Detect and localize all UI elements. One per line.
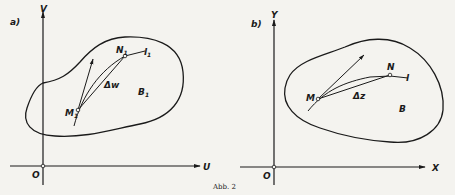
origin-label: O — [32, 170, 40, 180]
panel-a-tag: a) — [10, 17, 20, 27]
point-n — [388, 73, 392, 77]
x-axis-label: X — [431, 163, 440, 173]
label-n: N — [387, 62, 395, 72]
label-b1: B1 — [138, 87, 149, 98]
figure-canvas: a) V U O M1 N1 l1 Δw B1 b) Y X O — [0, 0, 455, 195]
y-axis-label: Y — [271, 10, 279, 20]
panel-b-tag: b) — [251, 19, 262, 29]
label-delta-z: Δz — [352, 91, 366, 101]
origin-label-b: O — [263, 171, 271, 181]
point-m — [316, 97, 320, 101]
label-l: l — [406, 73, 410, 83]
label-l1: l1 — [144, 47, 151, 58]
label-b: B — [399, 104, 406, 114]
label-m: M — [306, 93, 315, 103]
panel-a: a) V U O M1 N1 l1 Δw B1 — [10, 4, 211, 185]
origin-marker-b — [272, 165, 276, 169]
panel-b: b) Y X O M N l Δz B — [240, 10, 443, 185]
tangent-vector-a — [78, 59, 93, 110]
figure-caption: Abb. 2 — [212, 183, 236, 191]
origin-marker — [41, 164, 45, 168]
u-axis-label: U — [203, 162, 211, 172]
label-delta-w: Δw — [103, 80, 120, 90]
label-n1: N1 — [116, 45, 128, 56]
v-axis-label: V — [40, 4, 48, 14]
